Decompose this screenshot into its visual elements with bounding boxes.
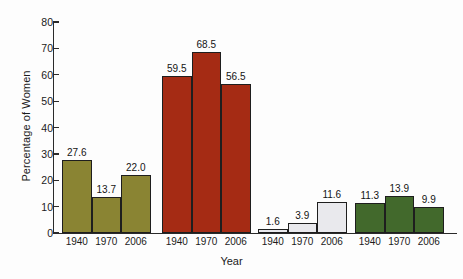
x-tick-label: 1940 bbox=[262, 236, 284, 247]
bar-value-label: 22.0 bbox=[126, 162, 145, 173]
y-tick-mark bbox=[53, 74, 59, 75]
y-tick-label: 40 bbox=[9, 122, 53, 134]
bar-group-1-1970 bbox=[92, 197, 122, 233]
bar-value-label: 27.6 bbox=[67, 147, 86, 158]
bar-value-label: 3.9 bbox=[295, 210, 309, 221]
bar-group-2-2006 bbox=[221, 84, 251, 233]
x-tick-label: 2006 bbox=[418, 236, 440, 247]
y-tick-mark bbox=[53, 206, 59, 207]
y-tick-mark bbox=[53, 153, 59, 154]
y-tick-label: 20 bbox=[9, 174, 53, 186]
bar-group-2-1940 bbox=[162, 76, 192, 233]
bar-value-label: 1.6 bbox=[266, 216, 280, 227]
x-tick-label: 2006 bbox=[125, 236, 147, 247]
y-tick-label: 70 bbox=[9, 42, 53, 54]
x-tick-label: 2006 bbox=[225, 236, 247, 247]
x-tick-label: 1940 bbox=[359, 236, 381, 247]
x-tick-label: 1970 bbox=[195, 236, 217, 247]
y-tick-mark bbox=[53, 101, 59, 102]
bar-value-label: 56.5 bbox=[226, 71, 245, 82]
y-tick-mark bbox=[53, 48, 59, 49]
y-tick-mark bbox=[53, 127, 59, 128]
y-tick-mark bbox=[53, 180, 59, 181]
y-tick-label: 30 bbox=[9, 148, 53, 160]
plot-area: Percentage of Women 01020304050607080 27… bbox=[0, 0, 463, 279]
bar-group-1-1940 bbox=[62, 160, 92, 233]
bar-group-3-1970 bbox=[288, 223, 318, 233]
bar-value-label: 13.7 bbox=[97, 184, 116, 195]
bar-group-1-2006 bbox=[121, 175, 151, 233]
bar-group-3-1940 bbox=[258, 229, 288, 233]
bar-value-label: 11.3 bbox=[360, 190, 379, 201]
y-tick-label: 0 bbox=[9, 227, 53, 239]
bar-group-3-2006 bbox=[317, 202, 347, 233]
x-axis-label: Year bbox=[0, 255, 463, 267]
bar-group-4-1970 bbox=[385, 196, 415, 233]
y-tick-label: 60 bbox=[9, 69, 53, 81]
x-tick-label: 1970 bbox=[95, 236, 117, 247]
bar-group-2-1970 bbox=[192, 52, 222, 233]
y-tick-label: 80 bbox=[9, 16, 53, 28]
bar-chart-figure: Percentage of Women 01020304050607080 27… bbox=[0, 0, 463, 279]
y-tick-label: 50 bbox=[9, 95, 53, 107]
x-tick-label: 1970 bbox=[388, 236, 410, 247]
x-axis-line bbox=[53, 233, 457, 234]
bar-group-4-1940 bbox=[355, 203, 385, 233]
x-tick-label: 1970 bbox=[291, 236, 313, 247]
y-tick-label: 10 bbox=[9, 201, 53, 213]
x-tick-label: 1940 bbox=[166, 236, 188, 247]
bar-value-label: 13.9 bbox=[390, 183, 409, 194]
y-tick-mark bbox=[53, 21, 59, 22]
bar-group-4-2006 bbox=[414, 207, 444, 233]
bar-value-label: 11.6 bbox=[322, 189, 341, 200]
x-tick-label: 1940 bbox=[66, 236, 88, 247]
bar-value-label: 68.5 bbox=[197, 39, 216, 50]
x-tick-label: 2006 bbox=[321, 236, 343, 247]
bar-value-label: 9.9 bbox=[422, 194, 436, 205]
bar-value-label: 59.5 bbox=[167, 63, 186, 74]
